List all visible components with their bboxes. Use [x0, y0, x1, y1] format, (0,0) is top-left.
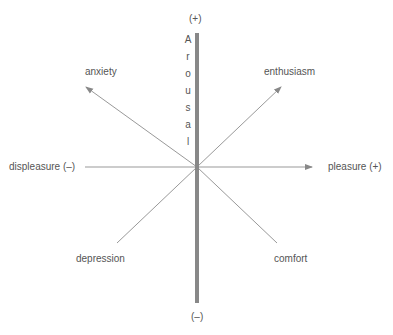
arousal-axis — [195, 33, 199, 303]
enthusiasm-arrow — [197, 87, 281, 167]
anxiety-arrow — [86, 87, 197, 167]
arousal-letter: r — [183, 48, 193, 65]
arousal-letter: u — [183, 82, 193, 99]
arousal-positive-label: (+) — [189, 14, 202, 24]
depression-label: depression — [76, 254, 125, 264]
arousal-letter: l — [183, 133, 193, 150]
displeasure-label: displeasure (–) — [9, 162, 75, 172]
arousal-letter: s — [183, 99, 193, 116]
arousal-letter: A — [183, 31, 193, 48]
arousal-negative-label: (–) — [191, 312, 203, 322]
comfort-line — [197, 167, 277, 243]
comfort-label: comfort — [274, 254, 307, 264]
anxiety-label: anxiety — [85, 67, 117, 77]
arousal-letter: a — [183, 116, 193, 133]
enthusiasm-label: enthusiasm — [264, 67, 315, 77]
arousal-letter: o — [183, 65, 193, 82]
arousal-axis-label: A r o u s a l — [183, 31, 193, 150]
depression-line — [117, 167, 197, 243]
pleasure-label: pleasure (+) — [328, 162, 382, 172]
